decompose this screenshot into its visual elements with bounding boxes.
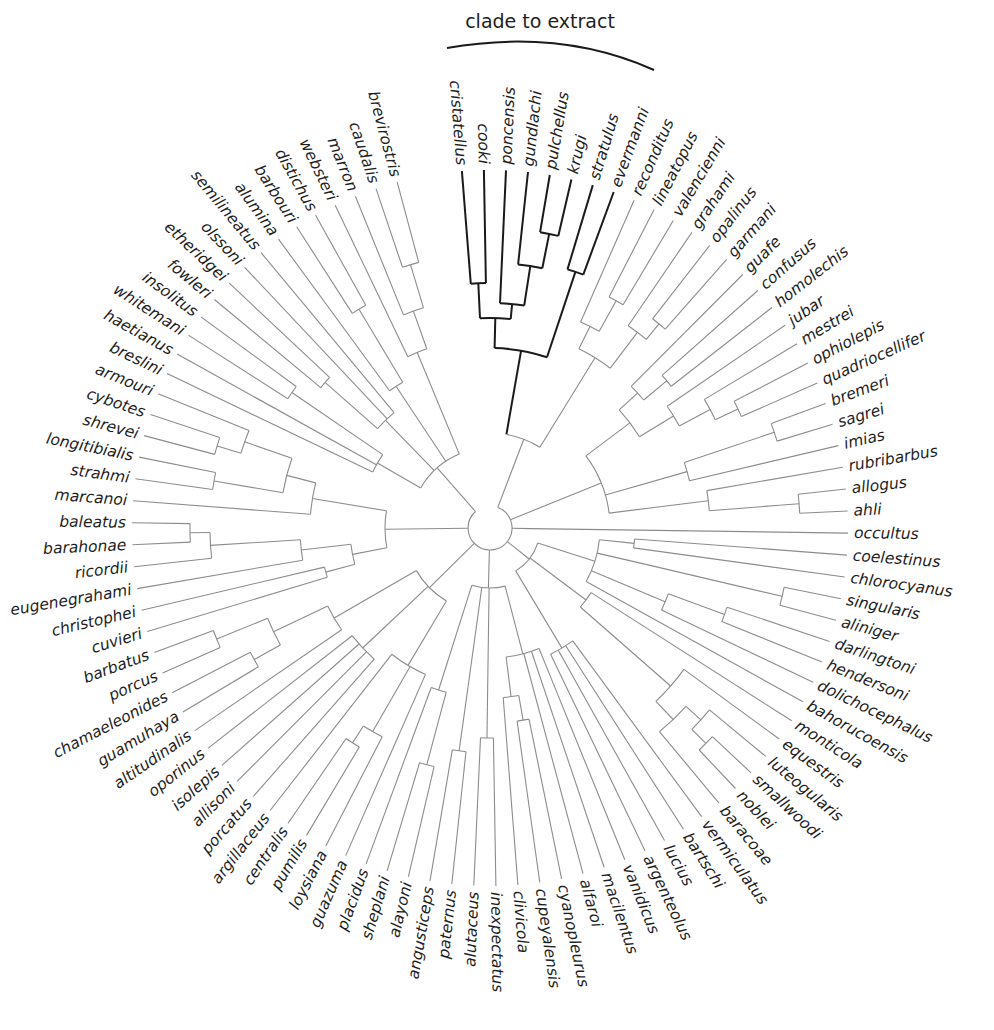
tip-labels: cristatelluscookiponcensisgundlachipulch… [9,80,954,993]
branch-radial [279,239,390,391]
branch-radial [653,245,710,318]
branch-radial [133,501,311,515]
branch-radial [662,610,814,682]
tip-label-coelestinus: coelestinus [852,547,941,572]
branch-radial [493,738,496,886]
branch-radial [151,415,220,438]
branch-radial [134,558,212,567]
branch-radial [524,266,530,306]
branch-radial [505,586,523,654]
branch-radial [245,442,292,459]
branch-radial [377,463,420,488]
phylogeny-figure: cristatelluscookiponcensisgundlachipulch… [0,0,994,1030]
branch-radial [516,571,562,648]
branch-radial [427,692,446,765]
branch-radial [301,544,351,550]
branch-radial [346,674,426,855]
branch-radial [335,205,408,357]
branch-radial [644,381,667,400]
branch-radial [741,383,817,417]
branch-radial [798,489,846,494]
tip-label-marcanoi: marcanoi [54,486,128,510]
clade-annotation: clade to extract [447,10,654,70]
branch-radial [623,221,673,305]
branch-radial [573,641,702,817]
branch-radial [709,505,779,511]
tree-branches [132,170,848,886]
tip-label-occultus: occultus [854,524,919,543]
tip-label-baleatus: baleatus [59,513,126,532]
branch-radial [599,301,616,332]
branch-radial [690,446,839,481]
tip-label-clivicola: clivicola [509,890,532,954]
branch-radial [610,332,637,368]
branch-radial [211,540,301,546]
branch-radial [452,752,466,884]
branch-radial [287,475,316,483]
branch-radial [531,651,604,867]
branch-radial [518,172,528,265]
branch-radial [597,553,646,564]
branch-radial [172,652,250,693]
branch-radial [144,436,215,455]
branch-radial [591,593,792,721]
branch-radial [566,646,684,829]
branch-radial [646,564,782,596]
branch-radial [396,386,446,461]
branch-radial [503,698,518,885]
branch-radial [167,374,373,472]
branch-radial [353,726,364,743]
branch-radial [558,179,571,236]
branch-radial [254,645,280,660]
branch-radial [699,750,735,789]
branch-radial [397,182,419,262]
branch-radial [777,424,833,441]
branch-radial [734,363,808,401]
branch-radial [325,382,377,428]
branch-radial [217,618,268,639]
branch-radial [177,354,376,465]
branch-radial [579,326,590,348]
branch-radial [591,571,665,602]
branch-radial [154,631,213,653]
branch-radial [780,605,836,620]
branch-radial [353,548,387,555]
branch-radial [487,678,488,738]
branch-radial [387,763,420,871]
branch-radial [411,265,424,308]
branch-radial [214,481,283,493]
branch-radial [668,594,724,615]
branch-radial [385,528,468,529]
branch-radial [679,409,710,426]
branch-radial [580,607,670,686]
branch-radial [147,577,327,631]
branch-radial [488,550,489,588]
tip-label-paternus: paternus [435,889,460,961]
tip-label-imias: imias [842,426,886,453]
branch-radial [253,659,374,796]
branch-radial [599,540,634,544]
branch-radial [135,479,212,490]
branch-radial [686,706,701,720]
branch-radial [307,747,360,835]
branch-radial [142,567,325,610]
branch-radial [784,587,841,599]
branch-radial [163,647,221,673]
tip-label-poncensis: poncensis [497,87,518,166]
branch-radial [326,564,355,572]
branch-radial [132,523,190,524]
branch-radial [132,542,190,545]
branch-arc [468,507,512,550]
branch-radial [439,585,472,690]
branch-radial [430,543,475,587]
branch-radial [619,393,637,410]
branch-radial [586,423,630,456]
branch-radial [639,416,673,437]
branch-radial [261,253,394,413]
branch-radial [222,644,359,765]
branch-radial [727,607,830,641]
branch-radial [488,588,489,678]
branch-radial [214,300,320,388]
branch-radial [665,259,727,329]
branch-radial [605,472,687,495]
